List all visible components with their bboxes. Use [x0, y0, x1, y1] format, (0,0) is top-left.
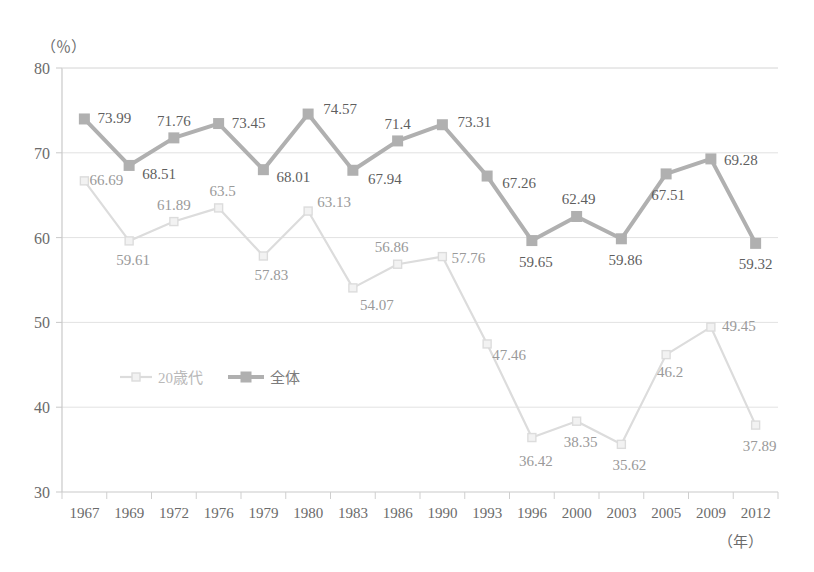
- data-label-20s: 63.13: [317, 194, 351, 210]
- data-label-20s: 37.89: [743, 438, 777, 454]
- data-label-20s: 63.5: [210, 183, 236, 199]
- data-label-overall: 68.51: [142, 166, 176, 182]
- x-axis-tick-label: 1972: [159, 505, 189, 521]
- data-point-marker-overall: [168, 132, 179, 143]
- data-label-20s: 56.86: [375, 239, 409, 255]
- data-point-marker-20s: [259, 252, 267, 260]
- chart-container: 304050607080 196719691972197619791980198…: [0, 0, 814, 572]
- x-axis-tick-label: 1996: [517, 505, 548, 521]
- data-point-marker-overall: [571, 211, 582, 222]
- data-label-overall: 67.94: [368, 171, 402, 187]
- data-point-marker-20s: [438, 253, 446, 261]
- x-axis-tick-label: 2009: [696, 505, 726, 521]
- x-axis-tick-label: 1969: [114, 505, 144, 521]
- y-axis-tick-label: 40: [34, 399, 50, 416]
- data-label-overall: 71.76: [157, 113, 191, 129]
- data-label-20s: 35.62: [613, 457, 647, 473]
- y-axis-tick-label: 30: [34, 484, 50, 501]
- x-axis-tick-label: 1993: [472, 505, 502, 521]
- x-axis-tick-label: 2000: [562, 505, 592, 521]
- y-axis-tick-labels: 304050607080: [34, 60, 62, 501]
- legend-marker-20s: [132, 373, 140, 381]
- data-label-20s: 66.69: [90, 172, 124, 188]
- series-line-overall: [79, 109, 761, 249]
- data-point-marker-20s: [617, 440, 625, 448]
- data-point-marker-20s: [215, 204, 223, 212]
- x-axis-tick-label: 1967: [69, 505, 100, 521]
- data-label-overall: 59.32: [739, 256, 773, 272]
- x-axis-tick-label: 1976: [204, 505, 235, 521]
- data-label-overall: 67.26: [502, 175, 536, 191]
- data-label-20s: 49.45: [722, 318, 756, 334]
- x-axis-tick-label: 2005: [651, 505, 681, 521]
- y-axis-unit-label: （％）: [41, 39, 86, 55]
- data-point-marker-overall: [79, 113, 90, 124]
- data-point-marker-overall: [482, 171, 493, 182]
- x-axis-tick-labels: 1967196919721976197919801983198619901993…: [69, 505, 770, 521]
- data-point-marker-overall: [616, 233, 627, 244]
- data-label-20s: 36.42: [519, 453, 553, 469]
- y-axis-tick-label: 80: [34, 60, 50, 77]
- x-axis-unit-label: （年）: [718, 534, 763, 550]
- data-label-overall: 73.99: [98, 110, 132, 126]
- x-axis-tick-label: 1986: [383, 505, 414, 521]
- line-chart: 304050607080 196719691972197619791980198…: [0, 0, 814, 572]
- data-label-20s: 46.2: [657, 364, 683, 380]
- legend-label-overall: 全体: [270, 369, 300, 386]
- data-point-marker-20s: [528, 434, 536, 442]
- data-point-marker-overall: [437, 119, 448, 130]
- y-axis-tick-label: 70: [34, 145, 50, 162]
- data-label-overall: 59.65: [519, 254, 553, 270]
- data-point-marker-20s: [170, 218, 178, 226]
- data-point-marker-overall: [258, 164, 269, 175]
- data-label-20s: 54.07: [360, 297, 394, 313]
- data-point-marker-20s: [394, 260, 402, 268]
- data-label-20s: 47.46: [492, 347, 526, 363]
- data-point-marker-20s: [304, 207, 312, 215]
- legend-label-20s: 20歳代: [158, 370, 203, 386]
- data-point-marker-20s: [349, 284, 357, 292]
- legend-marker-overall: [241, 372, 252, 383]
- data-point-marker-20s: [752, 421, 760, 429]
- data-label-20s: 38.35: [564, 434, 598, 450]
- data-point-marker-20s: [125, 237, 133, 245]
- data-point-marker-overall: [526, 235, 537, 246]
- data-point-marker-20s: [707, 323, 715, 331]
- line-path-overall: [84, 114, 755, 243]
- x-axis-tick-label: 1980: [293, 505, 323, 521]
- data-point-marker-overall: [661, 168, 672, 179]
- data-point-marker-overall: [705, 153, 716, 164]
- data-label-overall: 73.45: [232, 115, 266, 131]
- y-axis-tick-label: 60: [34, 230, 50, 247]
- data-label-overall: 59.86: [609, 252, 643, 268]
- data-label-overall: 67.51: [651, 187, 685, 203]
- data-label-20s: 57.83: [255, 267, 289, 283]
- y-axis-tick-label: 50: [34, 314, 50, 331]
- data-point-marker-overall: [750, 238, 761, 249]
- data-point-marker-20s: [483, 340, 491, 348]
- data-label-overall: 74.57: [323, 101, 357, 117]
- data-point-marker-overall: [303, 109, 314, 120]
- data-point-marker-overall: [392, 135, 403, 146]
- data-label-20s: 59.61: [116, 252, 150, 268]
- chart-legend: 20歳代全体: [120, 369, 300, 386]
- data-label-overall: 62.49: [562, 191, 596, 207]
- data-label-overall: 69.28: [724, 152, 758, 168]
- data-label-overall: 73.31: [458, 114, 492, 130]
- data-point-marker-overall: [347, 165, 358, 176]
- data-point-marker-20s: [573, 417, 581, 425]
- data-label-overall: 71.4: [385, 116, 412, 132]
- x-axis-tick-label: 2012: [741, 505, 771, 521]
- x-axis-ticks: [62, 492, 778, 499]
- x-axis-tick-label: 1983: [338, 505, 368, 521]
- data-point-marker-20s: [662, 351, 670, 359]
- data-point-marker-overall: [124, 160, 135, 171]
- x-axis-tick-label: 1990: [427, 505, 457, 521]
- line-path-20s: [84, 181, 755, 444]
- x-axis-tick-label: 2003: [606, 505, 636, 521]
- data-label-20s: 57.76: [452, 250, 486, 266]
- data-point-marker-20s: [80, 177, 88, 185]
- data-point-marker-overall: [213, 118, 224, 129]
- x-axis-tick-label: 1979: [248, 505, 278, 521]
- data-label-20s: 61.89: [157, 197, 191, 213]
